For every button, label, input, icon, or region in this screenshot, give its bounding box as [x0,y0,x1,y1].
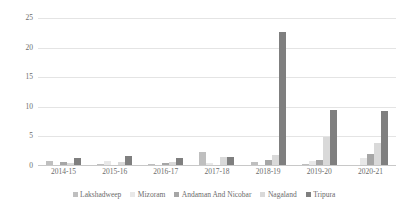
legend-item[interactable]: Lakshadweep [73,191,122,199]
bar-slot [265,18,272,166]
bar-slot [206,18,213,166]
legend-label: Nagaland [268,191,297,199]
bar-slot [60,18,67,166]
bar-slot [155,18,162,166]
chart-legend: LakshadweepMizoramAndaman And NicobarNag… [0,191,408,199]
bar[interactable] [374,143,381,166]
plot-area: 0510152025 [38,18,396,166]
bar-slot [381,18,388,166]
bar-slot [118,18,125,166]
y-tick-label: 15 [26,73,34,81]
bar[interactable] [323,137,330,166]
bar-slot [374,18,381,166]
bar-group [89,18,140,166]
bar[interactable] [199,152,206,166]
y-tick-label: 5 [29,133,33,141]
chart-container: 0510152025 2014-152015-162016-172017-182… [0,0,408,213]
legend-label: Lakshadweep [80,191,121,199]
x-tick-label: 2016-17 [140,168,191,176]
bar-slot [46,18,53,166]
bar-slot [316,18,323,166]
bar-slot [251,18,258,166]
bar-slot [330,18,337,166]
x-tick-label: 2019-20 [294,168,345,176]
legend-label: Andaman And Nicobar [182,191,252,199]
bar-slot [227,18,234,166]
bar-slot [111,18,118,166]
legend-label: Mizoram [138,191,166,199]
bar-slot [67,18,74,166]
bar-slot [258,18,265,166]
bar-group [140,18,191,166]
legend-swatch-icon [73,192,78,197]
bar[interactable] [381,111,388,166]
bar-slot [125,18,132,166]
legend-swatch-icon [174,192,179,197]
bar-group [191,18,242,166]
x-axis-labels: 2014-152015-162016-172017-182018-192019-… [38,168,396,176]
bar-slot [302,18,309,166]
x-tick-label: 2015-16 [89,168,140,176]
bar-slot [97,18,104,166]
bar-group [345,18,396,166]
legend-label: Tripura [313,191,335,199]
y-tick-label: 25 [26,14,34,22]
bar-slot [148,18,155,166]
bar[interactable] [330,110,337,166]
x-tick-label: 2017-18 [191,168,242,176]
legend-item[interactable]: Mizoram [130,191,165,199]
bar-slot [104,18,111,166]
bar-slot [53,18,60,166]
bar-slot [213,18,220,166]
y-tick-label: 0 [29,162,33,170]
y-tick-label: 10 [26,103,34,111]
bar-slot [199,18,206,166]
bar[interactable] [279,32,286,166]
legend-swatch-icon [260,192,265,197]
bar-slot [74,18,81,166]
bar-slot [162,18,169,166]
x-axis-line [38,165,396,166]
legend-item[interactable]: Nagaland [260,191,296,199]
bar-slot [279,18,286,166]
bar-slot [353,18,360,166]
legend-swatch-icon [306,192,311,197]
bar-groups [38,18,396,166]
x-tick-label: 2020-21 [345,168,396,176]
bar-slot [323,18,330,166]
y-tick-label: 20 [26,44,34,52]
bar-slot [309,18,316,166]
bar-slot [169,18,176,166]
bar-group [38,18,89,166]
x-tick-label: 2018-19 [243,168,294,176]
legend-item[interactable]: Andaman And Nicobar [174,191,251,199]
bar-slot [360,18,367,166]
legend-item[interactable]: Tripura [306,191,336,199]
bar-group [294,18,345,166]
bar-slot [272,18,279,166]
bar-slot [220,18,227,166]
bar-slot [367,18,374,166]
legend-swatch-icon [130,192,135,197]
x-tick-label: 2014-15 [38,168,89,176]
bar-slot [176,18,183,166]
bar-group [243,18,294,166]
